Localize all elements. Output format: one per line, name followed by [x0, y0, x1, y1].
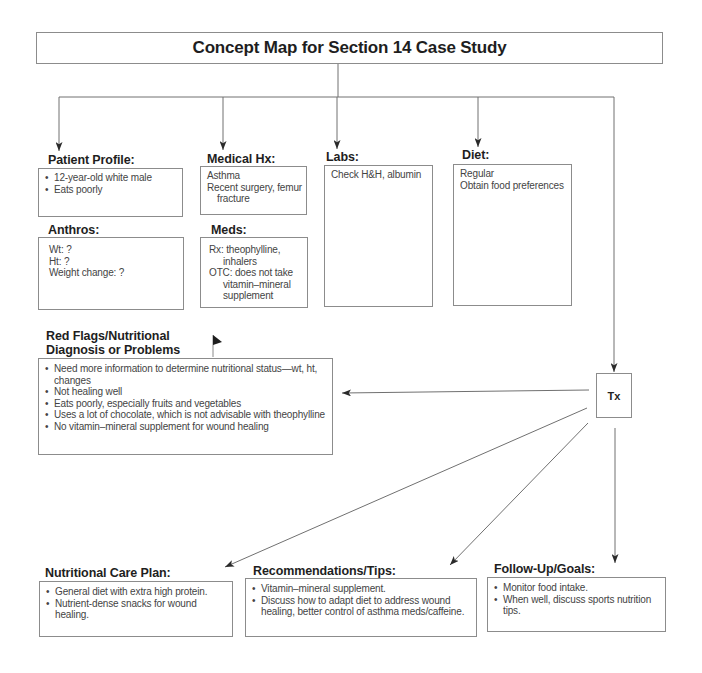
arrow-tx-to-red-flags — [342, 390, 589, 393]
medical-hx-heading: Medical Hx: — [207, 152, 275, 166]
recommendations-box: Vitamin–mineral supplement. Discuss how … — [245, 578, 477, 637]
follow-up-heading: Follow-Up/Goals: — [494, 562, 595, 576]
medical-hx-box: Asthma Recent surgery, femur fracture — [200, 166, 307, 215]
list-item: OTC: does not take vitamin–mineral suppl… — [209, 267, 306, 302]
list-item: Need more information to determine nutri… — [45, 363, 329, 386]
patient-profile-heading: Patient Profile: — [48, 153, 135, 167]
recommendations-heading: Recommendations/Tips: — [253, 564, 396, 578]
patient-profile-box: 12-year-old white male Eats poorly — [38, 168, 183, 217]
list-item: Regular — [460, 168, 568, 180]
page-title: Concept Map for Section 14 Case Study — [193, 38, 507, 58]
title-box: Concept Map for Section 14 Case Study — [36, 32, 663, 64]
tx-node: Tx — [596, 373, 632, 418]
list-item: When well, discuss sports nutrition tips… — [494, 594, 662, 617]
labs-box: Check H&H, albumin — [324, 165, 433, 307]
care-plan-heading: Nutritional Care Plan: — [45, 566, 171, 580]
list-item: Asthma — [207, 170, 303, 182]
list-item: Nutrient-dense snacks for wound healing. — [46, 598, 229, 621]
list-item: Eats poorly, especially fruits and veget… — [45, 398, 329, 410]
list-item: Wt: ? — [49, 244, 180, 256]
red-flags-heading-line2: Diagnosis or Problems — [46, 343, 180, 357]
list-item: Vitamin–mineral supplement. — [252, 583, 473, 595]
meds-heading: Meds: — [211, 223, 247, 237]
list-item: Rx: theophylline, inhalers — [209, 244, 306, 267]
red-flags-box: Need more information to determine nutri… — [38, 358, 333, 455]
list-item: Recent surgery, femur fracture — [207, 182, 303, 205]
labs-heading: Labs: — [326, 150, 359, 164]
follow-up-box: Monitor food intake. When well, discuss … — [487, 577, 666, 632]
concept-map: Concept Map for Section 14 Case Study Pa… — [0, 0, 702, 673]
list-item: Check H&H, albumin — [331, 169, 429, 181]
list-item: General diet with extra high protein. — [46, 586, 229, 598]
list-item: Ht: ? — [49, 256, 180, 268]
list-item: Obtain food preferences — [460, 180, 568, 192]
list-item: Not healing well — [45, 386, 329, 398]
diet-box: Regular Obtain food preferences — [453, 164, 572, 306]
anthros-heading: Anthros: — [48, 223, 99, 237]
meds-box: Rx: theophylline, inhalers OTC: does not… — [200, 237, 308, 308]
list-item: Monitor food intake. — [494, 582, 662, 594]
red-flags-heading-line1: Red Flags/Nutritional — [46, 329, 170, 343]
arrow-tx-to-recommendations — [450, 423, 588, 565]
anthros-box: Wt: ? Ht: ? Weight change: ? — [38, 237, 184, 310]
list-item: Eats poorly — [45, 184, 179, 196]
care-plan-box: General diet with extra high protein. Nu… — [39, 581, 233, 637]
list-item: Uses a lot of chocolate, which is not ad… — [45, 409, 329, 421]
list-item: Weight change: ? — [49, 267, 180, 279]
list-item: 12-year-old white male — [45, 172, 179, 184]
flag-icon — [213, 335, 222, 357]
list-item: No vitamin–mineral supplement for wound … — [45, 421, 329, 433]
list-item: Discuss how to adapt diet to address wou… — [252, 595, 473, 618]
diet-heading: Diet: — [462, 148, 489, 162]
tx-label: Tx — [608, 390, 621, 402]
